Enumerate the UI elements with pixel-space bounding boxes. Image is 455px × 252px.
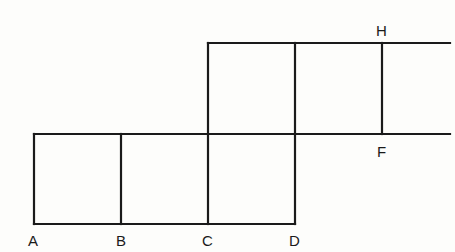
label-d: D: [289, 232, 300, 249]
label-b: B: [116, 232, 126, 249]
label-c: C: [202, 232, 213, 249]
label-a: A: [28, 232, 38, 249]
diagram-canvas: A B C D H F: [0, 0, 455, 252]
label-h: H: [376, 22, 387, 39]
label-f: F: [377, 143, 386, 160]
